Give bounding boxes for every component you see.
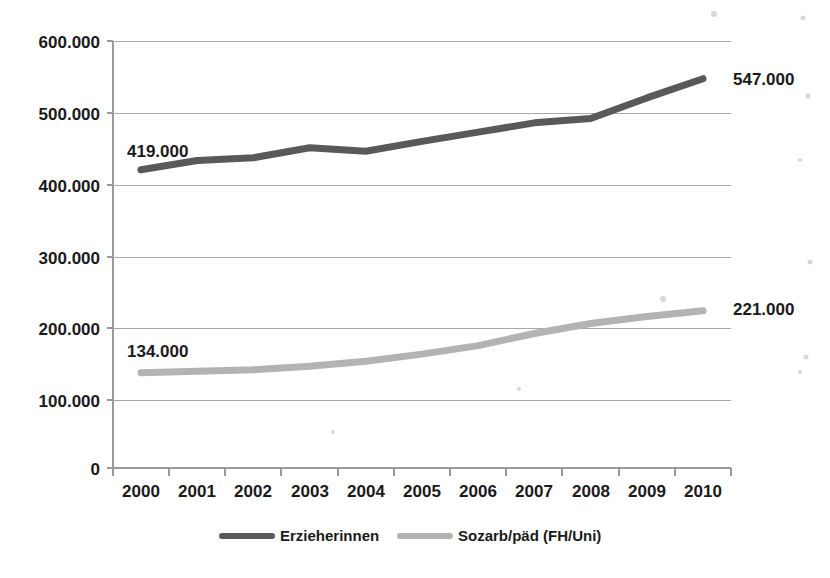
x-tick-label-2003: 2003 bbox=[291, 482, 329, 501]
x-tick-label-2007: 2007 bbox=[515, 482, 553, 501]
x-tick-label-2000: 2000 bbox=[122, 482, 160, 501]
y-tick-label-300000: 300.000 bbox=[39, 249, 100, 268]
x-tick-label-2008: 2008 bbox=[572, 482, 610, 501]
y-tick-label-400000: 400.000 bbox=[39, 177, 100, 196]
legend-label-sozarb-paed: Sozarb/päd (FH/Uni) bbox=[458, 527, 601, 544]
x-axis-tick-labels: 2000 2001 2002 2003 2004 2005 2006 2007 … bbox=[122, 482, 722, 501]
chart-container: 600.000 500.000 400.000 300.000 200.000 … bbox=[0, 0, 830, 578]
y-tick-label-100000: 100.000 bbox=[39, 392, 100, 411]
line-chart: 600.000 500.000 400.000 300.000 200.000 … bbox=[0, 0, 830, 578]
data-label-end-dark: 547.000 bbox=[733, 70, 794, 89]
y-tick-label-0: 0 bbox=[91, 460, 100, 479]
y-tick-label-200000: 200.000 bbox=[39, 320, 100, 339]
x-tick-label-2009: 2009 bbox=[628, 482, 666, 501]
x-tick-label-2010: 2010 bbox=[684, 482, 722, 501]
x-tick-label-2001: 2001 bbox=[178, 482, 216, 501]
x-tick-label-2004: 2004 bbox=[347, 482, 385, 501]
x-tick-label-2002: 2002 bbox=[234, 482, 272, 501]
data-label-start-dark: 419.000 bbox=[127, 142, 188, 161]
y-tick-label-600000: 600.000 bbox=[39, 33, 100, 52]
legend-label-erzieherinnen: Erzieherinnen bbox=[280, 527, 379, 544]
x-tick-label-2005: 2005 bbox=[403, 482, 441, 501]
y-tick-label-500000: 500.000 bbox=[39, 105, 100, 124]
x-tick-label-2006: 2006 bbox=[459, 482, 497, 501]
data-label-end-light: 221.000 bbox=[733, 300, 794, 319]
data-label-start-light: 134.000 bbox=[127, 342, 188, 361]
